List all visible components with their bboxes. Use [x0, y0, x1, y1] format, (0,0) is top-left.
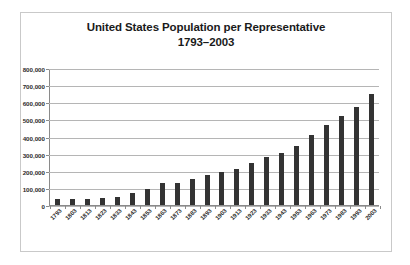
y-tick-mark [46, 155, 49, 156]
bar-slot [349, 69, 364, 205]
bar-slot [125, 69, 140, 205]
bar [369, 94, 374, 205]
bar [279, 153, 284, 205]
bar-slot [304, 69, 319, 205]
bar [294, 146, 299, 205]
bar-slot [50, 69, 65, 205]
bar-slot [185, 69, 200, 205]
y-tick-mark [46, 206, 49, 207]
y-tick-mark [46, 172, 49, 173]
bar [324, 125, 329, 205]
bar [264, 157, 269, 205]
y-tick-mark [46, 138, 49, 139]
chart-title-line-2: 1793–2003 [21, 35, 391, 50]
bar-slot [364, 69, 379, 205]
bar-series [50, 69, 379, 205]
y-tick-mark [46, 189, 49, 190]
bar-slot [65, 69, 80, 205]
y-tick-mark [46, 103, 49, 104]
y-tick-label: 700,000 [23, 83, 45, 90]
x-axis-labels: 1793180318131823183318431853186318731883… [50, 207, 380, 247]
bar-slot [155, 69, 170, 205]
y-tick-mark [46, 120, 49, 121]
bar-slot [214, 69, 229, 205]
bar-slot [170, 69, 185, 205]
bar-slot [289, 69, 304, 205]
y-tick-label: 0 [42, 203, 45, 210]
y-tick-label: 400,000 [23, 134, 45, 141]
bar-slot [110, 69, 125, 205]
bar-slot [140, 69, 155, 205]
y-tick-label: 600,000 [23, 100, 45, 107]
y-tick-label: 300,000 [23, 151, 45, 158]
bar [309, 135, 314, 205]
chart-title-line-1: United States Population per Representat… [21, 20, 391, 35]
y-tick-mark [46, 86, 49, 87]
y-tick-mark [46, 69, 49, 70]
bar-slot [259, 69, 274, 205]
bar-slot [200, 69, 215, 205]
bar-slot [80, 69, 95, 205]
y-tick-label: 100,000 [23, 185, 45, 192]
y-tick-label: 500,000 [23, 117, 45, 124]
bar-slot [334, 69, 349, 205]
bar [249, 163, 254, 205]
bar-slot [274, 69, 289, 205]
bar [55, 199, 60, 205]
bar [354, 107, 359, 205]
chart-figure: United States Population per Representat… [20, 12, 392, 252]
y-tick-label: 800,000 [23, 66, 45, 73]
y-tick-label: 200,000 [23, 168, 45, 175]
plot-area: 800,000700,000600,000500,000400,000300,0… [49, 69, 379, 206]
bar-slot [244, 69, 259, 205]
bar-slot [95, 69, 110, 205]
bar [339, 116, 344, 205]
x-tick-label-text: 1793 [49, 208, 63, 222]
bar-slot [319, 69, 334, 205]
chart-title: United States Population per Representat… [21, 20, 391, 50]
bar-slot [229, 69, 244, 205]
